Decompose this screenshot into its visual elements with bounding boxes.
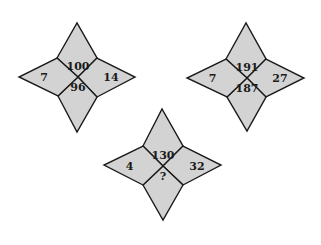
- star-3-left-value: 4: [126, 160, 134, 173]
- star-2-right-value: 27: [272, 72, 287, 85]
- star-1-right-value: 14: [103, 71, 119, 84]
- star-1-left-value: 7: [40, 71, 48, 84]
- star-3-bottom-value: ?: [160, 170, 166, 183]
- star-2-top-value: 191: [236, 61, 259, 74]
- star-2-bottom-value: 187: [236, 82, 259, 95]
- number-star-puzzle: 100 14 96 7 191 27 187 7 130 32 ? 4: [0, 0, 321, 245]
- star-2: 191 27 187 7: [187, 23, 304, 131]
- star-3-right-value: 32: [189, 160, 204, 173]
- star-3-top-value: 130: [152, 149, 175, 162]
- star-2-left-value: 7: [209, 72, 217, 85]
- star-3: 130 32 ? 4: [104, 109, 221, 220]
- star-1-bottom-value: 96: [70, 81, 86, 94]
- star-1-top-value: 100: [67, 60, 90, 73]
- star-1: 100 14 96 7: [19, 23, 135, 132]
